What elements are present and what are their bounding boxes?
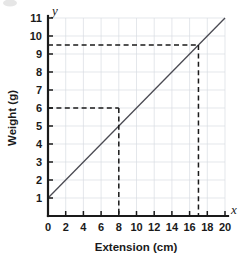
y-tick-label-4: 4 xyxy=(36,138,43,150)
y-tick-label-8: 8 xyxy=(36,66,42,78)
x-axis-title: Extension (cm) xyxy=(95,241,178,253)
x-tick-label-20: 20 xyxy=(219,221,231,233)
x-tick-label-14: 14 xyxy=(166,221,179,233)
y-tick-label-3: 3 xyxy=(36,156,42,168)
x-tick-label-12: 12 xyxy=(148,221,160,233)
x-tick-label-2: 2 xyxy=(63,221,69,233)
x-tick-label-4: 4 xyxy=(80,221,87,233)
x-tick-label-10: 10 xyxy=(130,221,142,233)
weight-extension-chart: 0 2 4 6 8 10 12 14 16 18 20 1 2 3 4 5 6 … xyxy=(0,0,247,260)
y-axis-symbol: y xyxy=(50,3,58,18)
y-tick-label-2: 2 xyxy=(36,174,42,186)
x-tick-label-16: 16 xyxy=(183,221,195,233)
y-tick-label-7: 7 xyxy=(36,84,42,96)
x-axis-symbol: x xyxy=(230,202,237,217)
y-tick-label-1: 1 xyxy=(36,192,42,204)
x-tick-label-18: 18 xyxy=(201,221,213,233)
y-axis-title: Weight (g) xyxy=(6,90,18,146)
x-tick-label-6: 6 xyxy=(98,221,104,233)
y-tick-label-9: 9 xyxy=(36,48,42,60)
x-tick-label-8: 8 xyxy=(116,221,122,233)
y-tick-label-5: 5 xyxy=(36,120,42,132)
x-tick-label-0: 0 xyxy=(45,221,51,233)
y-tick-label-6: 6 xyxy=(36,102,42,114)
y-tick-label-10: 10 xyxy=(30,30,42,42)
y-tick-label-11: 11 xyxy=(30,12,42,24)
